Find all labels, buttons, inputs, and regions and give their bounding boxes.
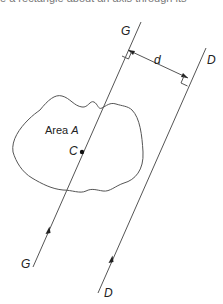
centroid-label: C <box>69 144 78 158</box>
area-outline <box>13 96 143 192</box>
axis-g-bottom-label: G <box>21 257 30 271</box>
axis-d-arrow-icon <box>109 256 114 264</box>
axis-d-top-label: D <box>207 53 216 67</box>
parallel-axis-diagram: G D d Area A C G D <box>0 0 223 304</box>
dimension-arrow-right-icon <box>181 73 188 78</box>
axis-g-top-label: G <box>121 24 130 38</box>
axis-d-line <box>98 48 206 293</box>
area-label-text: Area <box>45 124 71 136</box>
area-label: Area A <box>45 124 79 136</box>
axis-g-arrow-icon <box>46 227 51 235</box>
axis-d-bottom-label: D <box>104 286 113 300</box>
distance-label: d <box>154 53 161 67</box>
centroid-point <box>80 150 84 154</box>
area-symbol: A <box>70 124 78 136</box>
